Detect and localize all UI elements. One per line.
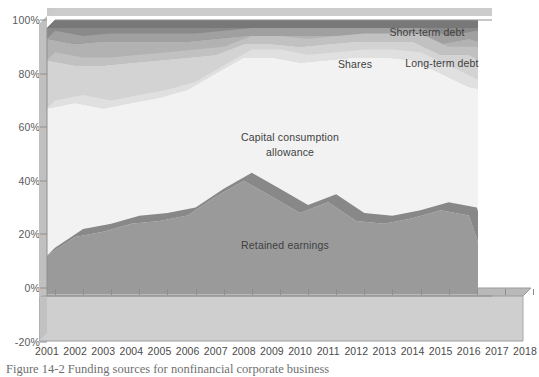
x-axis-tick bbox=[280, 289, 281, 295]
x-axis-label-2006: 2006 bbox=[176, 345, 200, 357]
x-axis-tick bbox=[505, 289, 506, 295]
x-axis-label-2004: 2004 bbox=[119, 345, 143, 357]
x-axis-tick bbox=[111, 289, 112, 295]
series-label-retained-earnings: Retained earnings bbox=[241, 239, 329, 251]
stacked-area-plot bbox=[0, 8, 492, 298]
y-axis-tick bbox=[40, 180, 47, 181]
x-axis-label-2001: 2001 bbox=[35, 345, 59, 357]
x-axis-label-2013: 2013 bbox=[373, 345, 397, 357]
x-axis-tick bbox=[252, 289, 253, 295]
y-axis-tick bbox=[40, 288, 47, 289]
series-label-allowance: allowance bbox=[266, 146, 314, 158]
figure-caption: Figure 14-2 Funding sources for nonfinan… bbox=[6, 362, 536, 377]
x-axis-label-2003: 2003 bbox=[91, 345, 115, 357]
x-axis-label-2002: 2002 bbox=[63, 345, 87, 357]
x-axis-label-2011: 2011 bbox=[317, 345, 340, 357]
x-axis-label-2007: 2007 bbox=[204, 345, 228, 357]
y-axis-tick bbox=[40, 341, 47, 342]
x-axis-tick bbox=[336, 289, 337, 295]
x-axis-tick bbox=[533, 289, 534, 295]
x-axis-label-2018: 2018 bbox=[513, 345, 537, 357]
y-axis-tick bbox=[40, 234, 47, 235]
x-axis-label-2005: 2005 bbox=[148, 345, 172, 357]
x-axis-tick bbox=[308, 289, 309, 295]
y-axis-tick bbox=[40, 127, 47, 128]
x-axis-tick bbox=[392, 289, 393, 295]
x-axis-tick bbox=[421, 289, 422, 295]
series-label-capital-consumption: Capital consumption bbox=[241, 131, 339, 143]
x-axis-label-2008: 2008 bbox=[232, 345, 256, 357]
x-axis-label-2016: 2016 bbox=[457, 345, 481, 357]
series-label-short-term-debt: Short-term debt bbox=[389, 26, 464, 38]
x-axis-tick bbox=[196, 289, 197, 295]
series-label-long-term-debt: Long-term debt bbox=[405, 57, 478, 69]
x-axis-tick bbox=[55, 289, 56, 295]
x-axis-label-2014: 2014 bbox=[401, 345, 425, 357]
x-axis-tick bbox=[224, 289, 225, 295]
x-axis-tick bbox=[83, 289, 84, 295]
series-label-shares: Shares bbox=[338, 58, 372, 70]
x-axis-tick bbox=[167, 289, 168, 295]
x-axis-label-2009: 2009 bbox=[260, 345, 284, 357]
x-axis-labels: 2001200220032004200520062007200820092010… bbox=[0, 345, 539, 361]
x-axis-tick bbox=[449, 289, 450, 295]
x-axis-tick bbox=[477, 289, 478, 295]
x-axis-label-2015: 2015 bbox=[429, 345, 453, 357]
x-axis-label-2017: 2017 bbox=[485, 345, 509, 357]
y-axis-tick bbox=[40, 73, 47, 74]
x-axis-label-2012: 2012 bbox=[344, 345, 368, 357]
x-axis-tick bbox=[139, 289, 140, 295]
x-axis-label-2010: 2010 bbox=[288, 345, 312, 357]
y-axis-tick bbox=[40, 20, 47, 21]
x-axis-tick bbox=[364, 289, 365, 295]
